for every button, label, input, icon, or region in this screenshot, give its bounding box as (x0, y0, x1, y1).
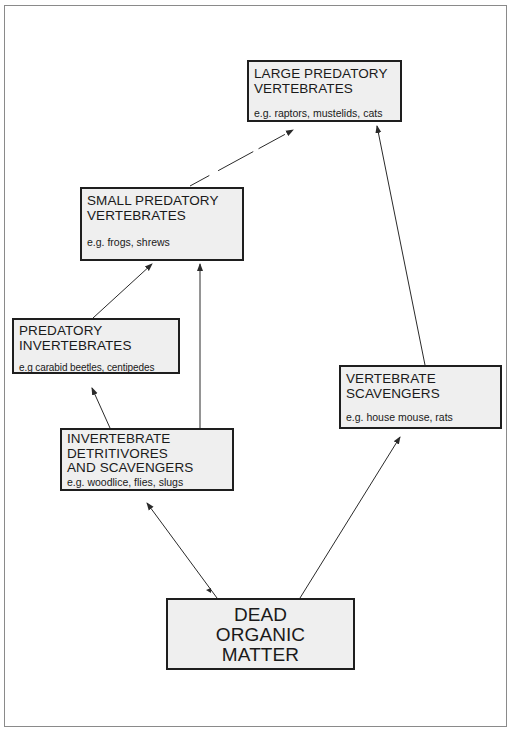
node-title-line: ORGANIC (173, 625, 348, 645)
node-vertebrate-scavengers: VERTEBRATE SCAVENGERS e.g. house mouse, … (339, 365, 502, 429)
node-title-line: DEAD (173, 605, 348, 625)
node-large-predatory-vertebrates: LARGE PREDATORY VERTEBRATES e.g. raptors… (247, 60, 402, 122)
node-examples: e.g carabid beetles, centipedes (19, 362, 173, 373)
node-examples: e.g. house mouse, rats (346, 412, 495, 424)
node-invertebrate-detritivores: INVERTEBRATE DETRITIVORES AND SCAVENGERS… (60, 428, 234, 491)
node-title-line: VERTEBRATES (254, 81, 395, 96)
node-title-line: MATTER (173, 645, 348, 665)
node-examples: e.g. frogs, shrews (87, 237, 237, 249)
node-title-line: INVERTEBRATES (19, 338, 173, 353)
node-title-line: LARGE PREDATORY (254, 66, 395, 81)
node-title-line: VERTEBRATES (87, 208, 237, 223)
node-title-line: AND SCAVENGERS (67, 461, 227, 476)
node-title-line: DETRITIVORES (67, 447, 227, 462)
node-predatory-invertebrates: PREDATORY INVERTEBRATES e.g carabid beet… (12, 318, 180, 374)
node-title-line: SCAVENGERS (346, 386, 495, 401)
node-examples: e.g. raptors, mustelids, cats (254, 108, 395, 120)
node-examples: e.g. woodlice, flies, slugs (67, 477, 227, 489)
node-dead-organic-matter: DEAD ORGANIC MATTER (166, 598, 355, 670)
node-title-line: VERTEBRATE (346, 371, 495, 386)
node-title-line: SMALL PREDATORY (87, 193, 237, 208)
node-small-predatory-vertebrates: SMALL PREDATORY VERTEBRATES e.g. frogs, … (80, 187, 244, 261)
node-title-line: INVERTEBRATE (67, 432, 227, 447)
node-title-line: PREDATORY (19, 323, 173, 338)
